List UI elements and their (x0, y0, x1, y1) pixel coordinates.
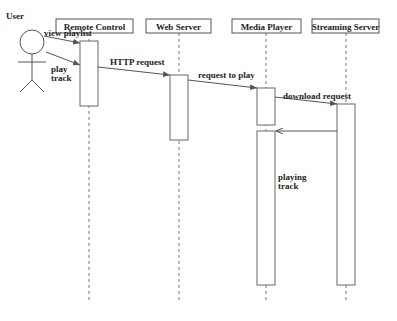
message-label: HTTP request (110, 57, 165, 67)
message-label: download request (283, 91, 351, 101)
actor-user: User (6, 11, 46, 92)
message-http-request: HTTP request (98, 57, 170, 75)
participant-media-player: Media Player (232, 19, 301, 33)
note-label-line2: track (278, 181, 299, 191)
activation-media-player-1 (257, 88, 275, 125)
message-label-line2: track (51, 73, 72, 83)
participant-web-server: Web Server (146, 19, 211, 33)
participant-label: Media Player (241, 22, 293, 32)
activation-streaming-server (337, 104, 355, 285)
note-playing-track: playing track (278, 172, 307, 191)
participant-streaming-server: Streaming Server (312, 19, 380, 33)
message-play-track: play track (46, 52, 80, 83)
message-label: view playlist (44, 28, 92, 38)
activation-web-server (170, 75, 188, 140)
message-request-to-play: request to play (188, 70, 257, 88)
stick-figure-icon (18, 30, 46, 92)
message-label: request to play (198, 70, 255, 80)
actor-label: User (6, 11, 24, 21)
activation-remote-control (80, 41, 98, 106)
activation-media-player-2 (257, 131, 275, 285)
participant-label: Streaming Server (312, 22, 380, 32)
message-download-request: download request (275, 91, 351, 104)
sequence-diagram: User Remote Control Web Server Media Pla… (0, 0, 397, 321)
participant-label: Web Server (156, 22, 201, 32)
